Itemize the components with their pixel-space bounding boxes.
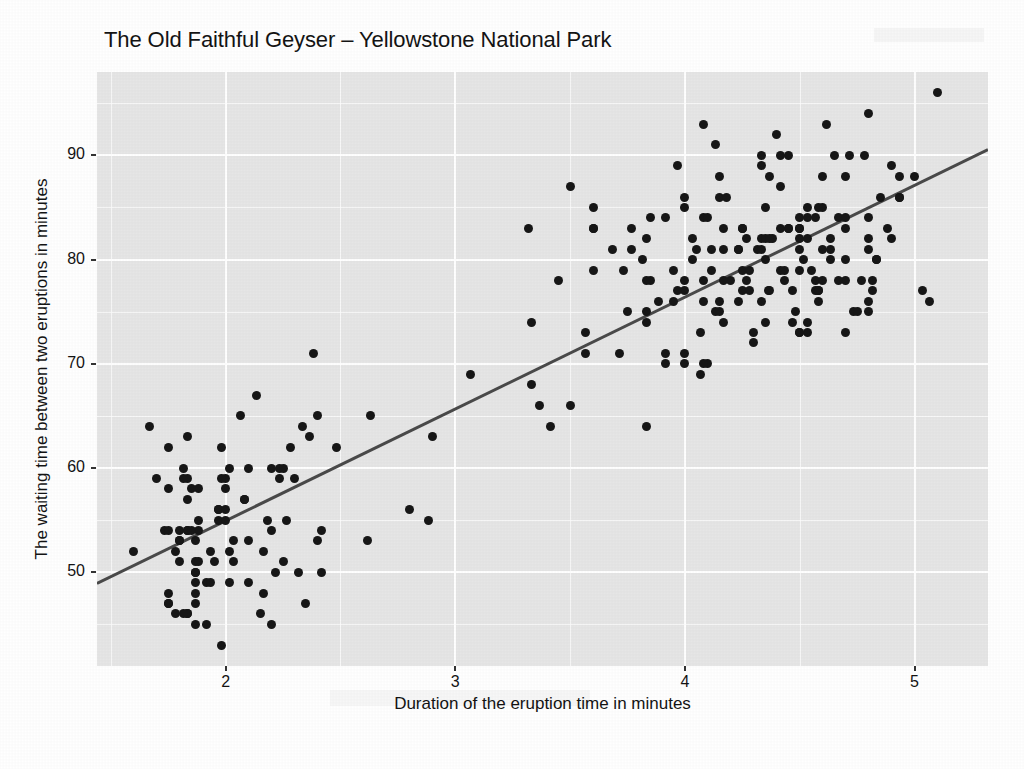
scatter-point <box>642 234 651 243</box>
scatter-point <box>275 474 284 483</box>
scatter-point <box>834 276 843 285</box>
scatter-point <box>229 536 238 545</box>
scatter-point <box>191 599 200 608</box>
scatter-point <box>646 213 655 222</box>
scatter-point <box>191 536 200 545</box>
scatter-point <box>405 505 414 514</box>
scatter-point <box>757 161 766 170</box>
scatter-point <box>366 411 375 420</box>
scatter-point <box>236 411 245 420</box>
scatter-point <box>424 516 433 525</box>
scatter-point <box>661 349 670 358</box>
scatter-point <box>788 318 797 327</box>
scatter-point <box>298 422 307 431</box>
scatter-points-layer <box>97 72 988 666</box>
scatter-point <box>757 297 766 306</box>
scatter-point <box>194 516 203 525</box>
scatter-point <box>876 193 885 202</box>
scatter-point <box>784 151 793 160</box>
scatter-point <box>256 609 265 618</box>
scatter-point <box>271 568 280 577</box>
scatter-point <box>791 307 800 316</box>
scatter-point <box>129 547 138 556</box>
scatter-point <box>719 276 728 285</box>
scatter-point <box>818 245 827 254</box>
scatter-point <box>279 464 288 473</box>
scatter-point <box>841 172 850 181</box>
scatter-point <box>841 213 850 222</box>
scatter-point <box>719 245 728 254</box>
scatter-point <box>175 557 184 566</box>
scatter-point <box>692 245 701 254</box>
scatter-point <box>715 172 724 181</box>
scatter-point <box>872 255 881 264</box>
y-tick-label: 50 <box>43 562 85 580</box>
scatter-point <box>864 213 873 222</box>
scatter-point <box>259 589 268 598</box>
scatter-point <box>895 193 904 202</box>
scatter-point <box>734 245 743 254</box>
scatter-point <box>309 349 318 358</box>
scatter-point <box>225 578 234 587</box>
scatter-point <box>742 276 751 285</box>
scatter-point <box>566 182 575 191</box>
scatter-point <box>152 474 161 483</box>
scatter-point <box>841 328 850 337</box>
scatter-point <box>776 151 785 160</box>
scatter-point <box>883 224 892 233</box>
scatter-point <box>221 516 230 525</box>
scatter-point <box>524 224 533 233</box>
scatter-point <box>164 599 173 608</box>
scatter-point <box>826 255 835 264</box>
scatter-point <box>845 151 854 160</box>
scatter-point <box>654 297 663 306</box>
scatter-point <box>680 203 689 212</box>
scatter-point <box>887 234 896 243</box>
scatter-point <box>822 120 831 129</box>
scatter-point <box>807 266 816 275</box>
scatter-point <box>145 422 154 431</box>
scatter-point <box>191 589 200 598</box>
scatter-point <box>210 557 219 566</box>
scatter-point <box>179 464 188 473</box>
scatter-point <box>699 120 708 129</box>
y-tick-label: 70 <box>43 354 85 372</box>
scatter-point <box>669 297 678 306</box>
scatter-point <box>566 401 575 410</box>
scatter-point <box>765 234 774 243</box>
x-tick-mark <box>454 666 456 671</box>
scatter-point <box>615 349 624 358</box>
y-tick-mark <box>91 467 96 469</box>
scatter-point <box>252 391 261 400</box>
scatter-point <box>699 276 708 285</box>
scatter-point <box>187 484 196 493</box>
scatter-point <box>332 443 341 452</box>
scatter-point <box>669 266 678 275</box>
x-axis-title: Duration of the eruption time in minutes <box>97 694 988 714</box>
x-tick-label: 2 <box>206 673 246 691</box>
scatter-point <box>811 213 820 222</box>
scatter-point <box>164 589 173 598</box>
scatter-point <box>749 338 758 347</box>
scatter-point <box>715 297 724 306</box>
scatter-point <box>795 224 804 233</box>
scatter-point <box>221 484 230 493</box>
scatter-point <box>164 484 173 493</box>
scatter-point <box>619 266 628 275</box>
scatter-point <box>868 286 877 295</box>
scatter-point <box>286 443 295 452</box>
scatter-point <box>734 297 743 306</box>
scatter-point <box>225 547 234 556</box>
scatter-point <box>761 318 770 327</box>
y-tick-mark <box>91 571 96 573</box>
scatter-point <box>305 432 314 441</box>
scatter-point <box>719 318 728 327</box>
scatter-point <box>466 370 475 379</box>
scatter-point <box>814 286 823 295</box>
scatter-point <box>841 224 850 233</box>
scatter-point <box>183 432 192 441</box>
scatter-point <box>642 276 651 285</box>
scatter-point <box>194 557 203 566</box>
scatter-point <box>240 495 249 504</box>
scatter-point <box>627 224 636 233</box>
